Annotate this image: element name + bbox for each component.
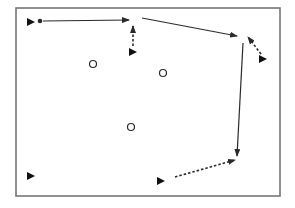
triangle-marker-t4 [157,177,165,185]
solid-arrow-a3 [142,18,237,36]
triangle-marker-t3 [259,55,267,63]
arrows-group [43,18,261,177]
hollow-circle-c3 [128,124,135,131]
dotted-arrow-a4 [248,37,261,54]
hollow-circle-c2 [160,70,167,77]
triangle-marker-t1 [27,18,35,26]
filled-dot-d1 [38,19,43,24]
dotted-arrow-a6 [175,160,235,177]
solid-arrow-a5 [237,43,243,156]
circles-group [90,61,167,131]
triangle-marker-t5 [27,172,35,180]
hollow-circle-c1 [90,61,97,68]
triangles-group [27,18,267,185]
triangle-marker-t2 [129,48,137,56]
dots-group [38,19,43,24]
diagram-canvas [0,0,295,208]
solid-arrow-a1 [43,20,129,21]
